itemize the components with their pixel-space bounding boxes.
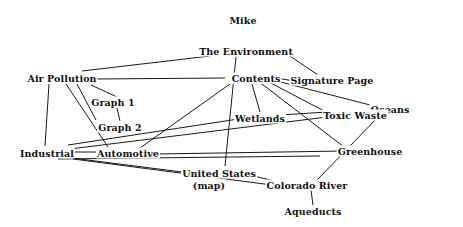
edge-contents-wetlands <box>252 84 260 112</box>
node-signature-page: Signature Page <box>290 75 375 86</box>
node-map: (map) <box>192 180 226 191</box>
edge-industrial-wetlands <box>68 118 245 145</box>
edge-air_pollution-industrial <box>45 84 49 146</box>
node-mike: Mike <box>228 15 257 26</box>
node-united-states: United States <box>181 168 257 179</box>
edge-wetlands-toxic_waste <box>280 112 327 115</box>
node-aqueducts: Aqueducts <box>284 206 343 217</box>
node-toxic-waste: Toxic Waste <box>322 110 388 121</box>
node-air-pollution: Air Pollution <box>26 73 97 84</box>
node-colorado-river: Colorado River <box>266 180 349 191</box>
edge-air_pollution-graph1 <box>91 85 117 97</box>
edge-air_pollution-contents <box>95 78 225 79</box>
node-graph-1: Graph 1 <box>90 97 135 108</box>
node-automotive: Automotive <box>96 148 160 159</box>
node-graph-2: Graph 2 <box>97 122 142 133</box>
edge-environment-signature_page <box>287 54 318 75</box>
edge-industrial-united_states <box>72 158 190 173</box>
edge-air_pollution-automotive <box>66 84 108 147</box>
edge-automotive-greenhouse <box>156 151 343 154</box>
edge-air_pollution-environment <box>82 56 210 71</box>
node-industrial: Industrial <box>19 148 75 159</box>
node-the-environment: The Environment <box>198 46 294 57</box>
concept-map-canvas: Mike The Environment Air Pollution Conte… <box>0 0 463 227</box>
node-greenhouse: Greenhouse <box>337 146 404 157</box>
edge-graph1-graph2 <box>117 108 120 121</box>
node-contents: Contents <box>231 73 282 84</box>
node-wetlands: Wetlands <box>234 113 286 124</box>
edge-colorado_river-aqueducts <box>311 190 313 205</box>
